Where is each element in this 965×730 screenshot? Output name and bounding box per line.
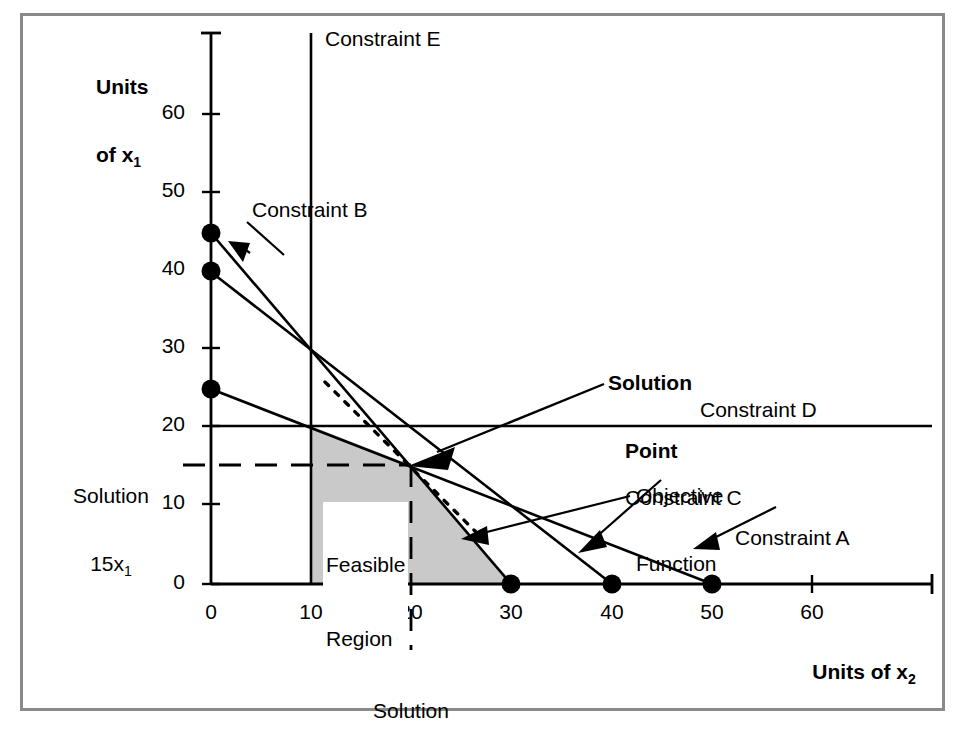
x-axis-title: Units of x2 bbox=[789, 638, 916, 710]
constraint-b-label: Constraint B bbox=[252, 199, 368, 222]
y-tick-label-20: 20 bbox=[140, 413, 185, 436]
marker-y-45 bbox=[202, 224, 221, 243]
y-axis-title-subscript: 1 bbox=[133, 155, 141, 171]
feasible-region-label-line1: Feasible bbox=[326, 553, 405, 578]
y-tick-label-40: 40 bbox=[140, 257, 185, 280]
feasible-region-label-line2: Region bbox=[326, 627, 405, 652]
x-axis-title-subscript: 2 bbox=[908, 671, 916, 687]
constraint-a-label: Constraint A bbox=[735, 527, 849, 550]
x-tick-label-0: 0 bbox=[186, 601, 236, 624]
marker-x-30 bbox=[502, 575, 521, 594]
objective-function-label: Objective Function bbox=[636, 440, 724, 621]
solution-y-label-line2: 15x1 bbox=[46, 553, 176, 579]
x-tick-label-40: 40 bbox=[587, 601, 637, 624]
solution-y-label: Solution 15x1 bbox=[46, 440, 176, 625]
linear-programming-figure: Units of x1 Units of x2 60 50 40 30 20 1… bbox=[0, 0, 965, 730]
y-tick-label-60: 60 bbox=[140, 101, 185, 124]
constraint-b-leader bbox=[228, 222, 284, 262]
marker-y-40 bbox=[202, 262, 221, 281]
y-tick-label-30: 30 bbox=[140, 335, 185, 358]
objective-function-label-line1: Objective bbox=[636, 485, 724, 508]
objective-function-label-line2: Function bbox=[636, 553, 724, 576]
constraint-e-label: Constraint E bbox=[325, 28, 441, 51]
y-axis-title-line1: Units bbox=[96, 76, 216, 99]
solution-x-label: Solution 20x2 bbox=[346, 655, 476, 730]
y-tick-label-50: 50 bbox=[140, 179, 185, 202]
solution-x-label-line1: Solution bbox=[346, 700, 476, 723]
solution-point-label-line1: Solution bbox=[608, 372, 692, 395]
y-axis-title-line2: of x1 bbox=[96, 144, 216, 170]
constraint-d-label: Constraint D bbox=[700, 399, 817, 422]
marker-y-25 bbox=[202, 380, 221, 399]
x-tick-label-30: 30 bbox=[486, 601, 536, 624]
marker-x-40 bbox=[603, 575, 622, 594]
x-tick-label-60: 60 bbox=[787, 601, 837, 624]
solution-y-label-line1: Solution bbox=[46, 485, 176, 508]
solution-y-label-subscript: 1 bbox=[124, 564, 132, 580]
